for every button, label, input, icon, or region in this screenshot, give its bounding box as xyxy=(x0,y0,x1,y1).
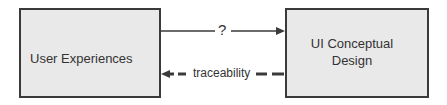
forward-edge-label: ? xyxy=(218,22,226,38)
arrowhead-right-icon xyxy=(276,27,285,35)
traceability-edge-label: traceability xyxy=(193,66,250,80)
connectors xyxy=(0,0,447,105)
arrowhead-left-icon xyxy=(161,70,170,78)
